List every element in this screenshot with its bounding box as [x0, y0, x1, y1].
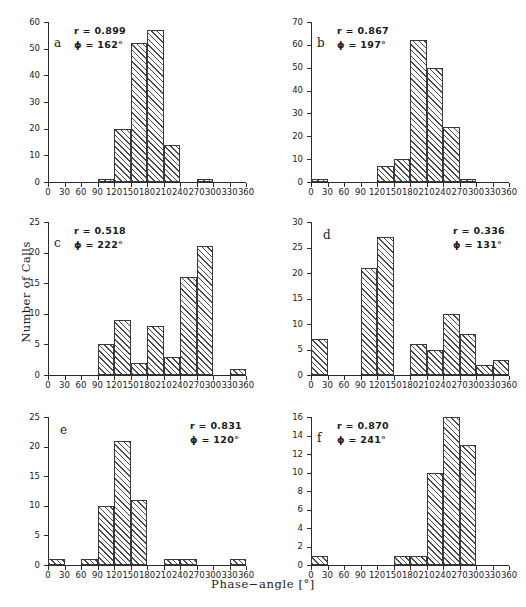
- histogram-bar: [460, 445, 477, 565]
- y-tick-label: 0: [14, 178, 40, 187]
- x-tick-label: 90: [352, 188, 370, 197]
- histogram-panel-b: 0102030405060700306090120150180210240270…: [311, 22, 509, 182]
- histogram-panel-d: 0510152025300306090120150180210240270300…: [311, 222, 509, 375]
- panel-stats-d: r = 0.336ϕ = 131°: [453, 224, 505, 252]
- histogram-bar: [410, 344, 427, 375]
- correlation-value: r = 0.870: [337, 419, 389, 433]
- histogram-bar: [460, 179, 477, 183]
- histogram-panel-f: 0246810121416030609012015018021024027030…: [311, 417, 509, 565]
- histogram-bar: [81, 559, 98, 565]
- y-tick-label: 2: [277, 542, 303, 551]
- y-tick-label: 5: [277, 345, 303, 354]
- x-tick-label: 330: [484, 571, 502, 580]
- phase-value: ϕ = 162°: [74, 38, 126, 52]
- histogram-bar: [460, 334, 477, 375]
- x-tick-label: 150: [122, 571, 140, 580]
- x-tick-label: 360: [237, 381, 255, 390]
- x-tick-label: 330: [484, 188, 502, 197]
- panel-stats-a: r = 0.899ϕ = 162°: [74, 24, 126, 52]
- x-tick-label: 120: [368, 571, 386, 580]
- y-tick-label: 15: [14, 279, 40, 288]
- x-tick-label: 150: [385, 381, 403, 390]
- x-tick-label: 300: [204, 381, 222, 390]
- y-tick-label: 10: [14, 151, 40, 160]
- histogram-panel-c: 0510152025030609012015018021024027030033…: [48, 222, 246, 375]
- histogram-bar: [410, 556, 427, 565]
- x-tick-label: 300: [467, 571, 485, 580]
- x-tick-label: 180: [401, 381, 419, 390]
- y-tick-label: 10: [277, 320, 303, 329]
- y-tick-label: 30: [14, 98, 40, 107]
- x-tick-label: 60: [72, 381, 90, 390]
- panel-letter-b: b: [317, 36, 325, 50]
- y-tick-label: 15: [277, 294, 303, 303]
- y-tick-label: 15: [14, 472, 40, 481]
- y-tick-label: 0: [14, 371, 40, 380]
- x-tick-label: 240: [171, 188, 189, 197]
- histogram-bar: [394, 556, 411, 565]
- x-tick-label: 240: [171, 571, 189, 580]
- y-tick-label: 20: [277, 132, 303, 141]
- y-tick-label: 20: [277, 269, 303, 278]
- x-tick-label: 240: [434, 571, 452, 580]
- x-tick-label: 210: [155, 188, 173, 197]
- x-tick-label: 60: [335, 571, 353, 580]
- y-tick-label: 6: [277, 505, 303, 514]
- histogram-bar: [311, 179, 328, 183]
- histogram-bar: [493, 360, 510, 375]
- phase-value: ϕ = 241°: [337, 433, 389, 447]
- x-tick-label: 120: [105, 381, 123, 390]
- y-tick-label: 40: [277, 86, 303, 95]
- y-tick-label: 60: [14, 18, 40, 27]
- histogram-bar: [131, 363, 148, 375]
- x-tick-label: 210: [155, 571, 173, 580]
- x-tick-label: 210: [418, 381, 436, 390]
- y-tick-label: 30: [277, 218, 303, 227]
- x-tick-label: 0: [39, 381, 57, 390]
- histogram-bar: [427, 473, 444, 566]
- x-tick-label: 270: [188, 571, 206, 580]
- y-tick-label: 0: [277, 561, 303, 570]
- x-tick-label: 60: [335, 381, 353, 390]
- histogram-bar: [197, 179, 214, 183]
- phase-value: ϕ = 120°: [190, 433, 242, 447]
- x-tick-label: 270: [451, 571, 469, 580]
- x-tick-label: 330: [221, 188, 239, 197]
- histogram-bar: [147, 30, 164, 182]
- histogram-bar: [180, 559, 197, 565]
- x-tick-label: 150: [122, 381, 140, 390]
- histogram-bar: [230, 369, 247, 375]
- x-tick-label: 210: [155, 381, 173, 390]
- histogram-bar: [164, 357, 181, 375]
- histogram-panel-a: 0102030405060030609012015018021024027030…: [48, 22, 246, 182]
- x-tick-label: 240: [434, 188, 452, 197]
- x-tick-label: 240: [434, 381, 452, 390]
- x-tick-label: 60: [72, 571, 90, 580]
- histogram-bar: [427, 68, 444, 182]
- panel-letter-a: a: [54, 36, 61, 50]
- y-tick-label: 10: [14, 309, 40, 318]
- x-tick-label: 150: [122, 188, 140, 197]
- correlation-value: r = 0.518: [74, 224, 126, 238]
- correlation-value: r = 0.336: [453, 224, 505, 238]
- x-tick-label: 0: [39, 571, 57, 580]
- histogram-bar: [114, 320, 131, 375]
- x-tick-label: 150: [385, 188, 403, 197]
- correlation-value: r = 0.899: [74, 24, 126, 38]
- phase-value: ϕ = 222°: [74, 238, 126, 252]
- histogram-bar: [164, 145, 181, 182]
- x-tick-label: 360: [500, 571, 518, 580]
- y-tick-label: 16: [277, 413, 303, 422]
- y-tick-label: 0: [277, 371, 303, 380]
- histogram-bar: [443, 314, 460, 375]
- x-tick-label: 0: [39, 188, 57, 197]
- y-tick-label: 10: [277, 468, 303, 477]
- histogram-bar: [197, 246, 214, 375]
- x-tick-label: 300: [467, 381, 485, 390]
- x-tick-label: 300: [204, 571, 222, 580]
- y-tick-label: 0: [14, 561, 40, 570]
- x-tick-label: 60: [72, 188, 90, 197]
- x-tick-label: 330: [221, 571, 239, 580]
- y-tick-label: 50: [14, 44, 40, 53]
- y-tick-label: 5: [14, 340, 40, 349]
